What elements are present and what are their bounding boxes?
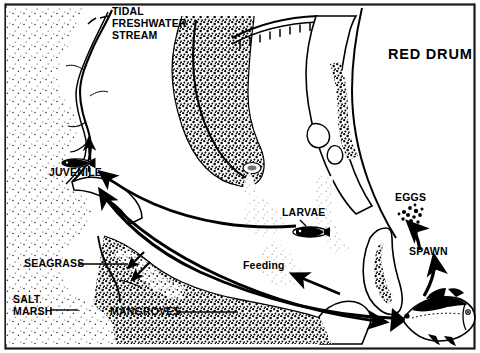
red-drum-life-cycle-figure: RED DRUM TIDAL FRESHWATER STREAM JUVENIL…	[0, 0, 480, 353]
feeding-label: Feeding	[243, 260, 285, 272]
tidal-freshwater-stream-label: TIDAL FRESHWATER STREAM	[112, 6, 187, 41]
larvae-label: LARVAE	[282, 207, 325, 219]
salt-marsh-label-line2: MARSH	[13, 306, 53, 318]
salt-marsh-label: SALT MARSH	[13, 294, 53, 318]
juvenile-label: JUVENILE	[49, 167, 102, 179]
tidal-stream-label-line2: FRESHWATER	[112, 18, 187, 30]
tidal-stream-label-line3: STREAM	[112, 30, 187, 42]
spawn-label: SPAWN	[409, 246, 448, 258]
eggs-label: EGGS	[395, 192, 426, 204]
page-title: RED DRUM	[388, 46, 473, 62]
tidal-stream-label-line1: TIDAL	[112, 6, 187, 18]
seagrass-label: SEAGRASS	[24, 258, 85, 270]
salt-marsh-label-line1: SALT	[13, 294, 53, 306]
mangroves-label: MANGROVES	[110, 306, 181, 318]
